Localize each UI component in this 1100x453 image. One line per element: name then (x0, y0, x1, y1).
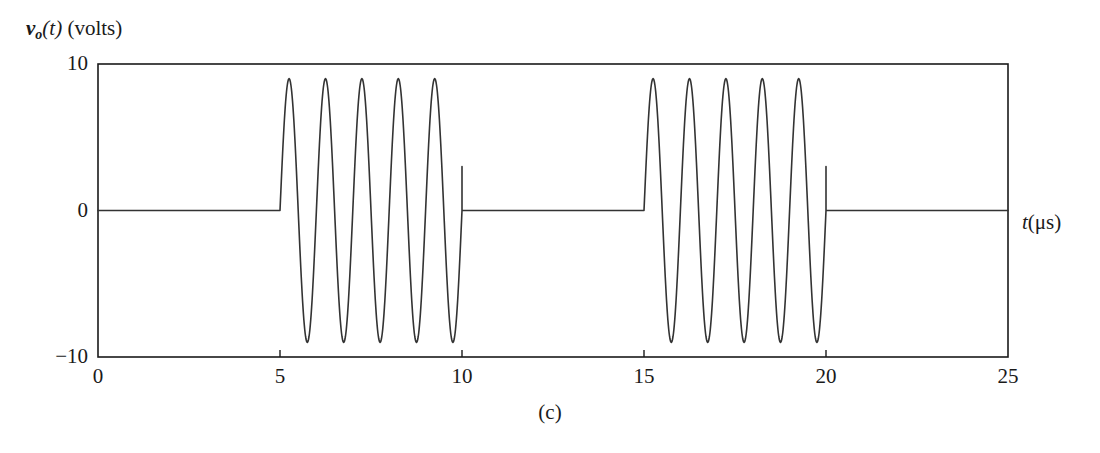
y-axis-label-units: (volts) (67, 16, 122, 40)
waveform-figure: vo(t) (volts) t(μs) −10010 0510152025 (c… (0, 0, 1100, 453)
x-tick-label: 25 (978, 366, 1038, 387)
y-axis-label: vo(t) (volts) (26, 18, 122, 42)
axis-ticks (280, 350, 826, 357)
x-tick-label: 5 (250, 366, 310, 387)
y-tick-label: 10 (67, 53, 88, 74)
y-tick-label: 0 (78, 200, 89, 221)
plot-canvas (0, 0, 1100, 453)
x-axis-label-units: (μs) (1028, 210, 1061, 234)
y-axis-label-arg: (t) (42, 16, 62, 40)
y-axis-label-var: v (26, 16, 35, 40)
x-tick-label: 15 (614, 366, 674, 387)
y-tick-label: −10 (55, 346, 88, 367)
figure-caption: (c) (0, 402, 1100, 423)
x-axis-label: t(μs) (1022, 212, 1061, 233)
x-tick-label: 20 (796, 366, 856, 387)
x-tick-label: 0 (68, 366, 128, 387)
x-tick-label: 10 (432, 366, 492, 387)
signal-trace (98, 79, 1008, 343)
